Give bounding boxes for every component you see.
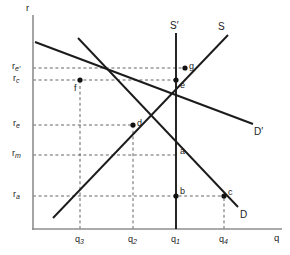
x-tick-label-q3: q3	[75, 235, 84, 245]
curve-demand-d	[78, 38, 238, 207]
point-label-f: f	[74, 84, 77, 93]
curve-label-d: D	[240, 210, 247, 220]
point-label-c: c	[228, 188, 233, 197]
curve-label-s-prime: S′	[170, 21, 179, 31]
x-axis-label: q	[274, 233, 279, 243]
point-g-dot	[182, 65, 187, 70]
point-label-a: a	[180, 147, 185, 156]
y-tick-label-rm: rm	[12, 149, 21, 159]
x-tick-label-q1: q1	[171, 235, 180, 245]
y-axis-label: r	[26, 3, 29, 13]
y-tick-label-re-prime: re′	[12, 62, 20, 72]
point-c-dot	[221, 193, 226, 198]
point-f-dot	[77, 77, 82, 82]
y-tick-label-rc: rc	[13, 74, 20, 84]
x-tick-label-q4: q4	[219, 235, 228, 245]
point-label-b: b	[180, 187, 185, 196]
curve-label-s: S	[218, 22, 225, 32]
point-label-d: d	[137, 119, 142, 128]
y-tick-label-ra: ra	[13, 190, 20, 200]
point-label-g: g	[189, 62, 194, 71]
curve-label-d-prime: D′	[254, 127, 263, 137]
point-label-e: e	[180, 81, 185, 90]
point-d-dot	[130, 122, 135, 127]
point-b-dot	[173, 193, 178, 198]
point-e-dot	[173, 77, 178, 82]
curve-demand-d-prime	[35, 42, 253, 124]
x-tick-label-q2: q2	[128, 235, 137, 245]
y-tick-label-re: re	[13, 119, 20, 129]
supply-demand-figure: r q re′ rc re rm ra q3 q2 q1 q4 S S′ D	[0, 0, 290, 255]
curves	[35, 33, 253, 229]
